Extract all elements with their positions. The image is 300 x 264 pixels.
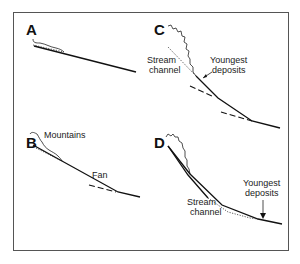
label-deposits-c: deposits (212, 65, 246, 75)
label-stream-d: Stream (187, 197, 216, 207)
panel-b: B Mountains Fan (26, 130, 140, 197)
fan-surface-c (196, 76, 280, 128)
older-surface-c2 (221, 112, 252, 121)
label-youngest-d: Youngest (243, 178, 281, 188)
panel-letter-b: B (26, 134, 37, 151)
arrowhead-c (203, 74, 207, 78)
panel-a: A (26, 21, 136, 72)
label-channel-d: channel (190, 207, 222, 217)
label-mountains: Mountains (44, 130, 86, 140)
label-stream-c: Stream (147, 55, 176, 65)
panel-letter-c: C (154, 21, 165, 38)
panel-letter-d: D (154, 134, 165, 151)
panel-d: D Stream channel Youngest deposits (154, 134, 282, 224)
fan-surface-b (33, 145, 140, 197)
diagram-canvas: A B Mountains Fan C Stream channel Young… (0, 0, 300, 264)
arrowhead-d (260, 213, 266, 219)
mountain-profile-d (166, 134, 190, 174)
older-surface-c1 (190, 86, 212, 96)
panel-letter-a: A (26, 21, 37, 38)
fan-surface-a (34, 46, 136, 72)
label-fan: Fan (92, 170, 108, 180)
label-deposits-d: deposits (245, 188, 279, 198)
panel-c: C Stream channel Youngest deposits (147, 21, 280, 128)
label-youngest-c: Youngest (210, 55, 248, 65)
label-channel-c: channel (149, 65, 181, 75)
